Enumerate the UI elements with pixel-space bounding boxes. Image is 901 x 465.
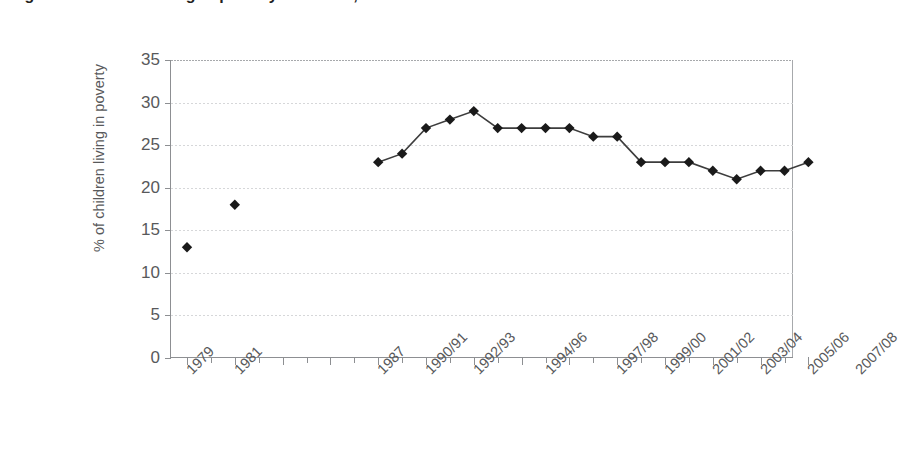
- data-point-marker: [182, 242, 192, 252]
- x-axis-tick: [522, 357, 523, 365]
- data-point-marker: [564, 123, 574, 133]
- data-point-marker: [493, 123, 503, 133]
- y-axis-title: % of children living in poverty: [91, 33, 107, 283]
- data-point-marker: [445, 114, 455, 124]
- plot-area: 05101520253035 1979198119871990/911992/9…: [170, 60, 793, 358]
- data-point-marker: [373, 157, 383, 167]
- data-point-marker: [660, 157, 670, 167]
- data-point-marker: [230, 200, 240, 210]
- y-axis-tick-label: 5: [151, 305, 160, 325]
- data-point-marker: [540, 123, 550, 133]
- y-axis-tick: [165, 358, 171, 359]
- series-line: [378, 111, 808, 179]
- x-axis-tick-label: 2007/08: [852, 329, 900, 377]
- y-axis-tick-label: 10: [141, 263, 160, 283]
- data-point-marker: [803, 157, 813, 167]
- y-axis-tick-label: 15: [141, 220, 160, 240]
- data-point-marker: [469, 106, 479, 116]
- data-point-marker: [779, 165, 789, 175]
- chart-title: Figure 1: Children living in poverty in …: [10, 0, 481, 4]
- data-series: [171, 60, 794, 358]
- x-axis-tick: [283, 357, 284, 365]
- data-point-marker: [708, 165, 718, 175]
- y-axis-tick-label: 30: [141, 93, 160, 113]
- y-axis-tick-label: 0: [151, 348, 160, 368]
- data-point-marker: [516, 123, 526, 133]
- x-axis-tick: [330, 357, 331, 365]
- y-axis-tick-label: 20: [141, 178, 160, 198]
- y-axis-tick-label: 25: [141, 135, 160, 155]
- data-point-marker: [755, 165, 765, 175]
- y-axis-tick-label: 35: [141, 50, 160, 70]
- data-point-marker: [684, 157, 694, 167]
- x-axis-tick-label: 2005/06: [804, 329, 852, 377]
- data-point-marker: [588, 131, 598, 141]
- data-point-marker: [732, 174, 742, 184]
